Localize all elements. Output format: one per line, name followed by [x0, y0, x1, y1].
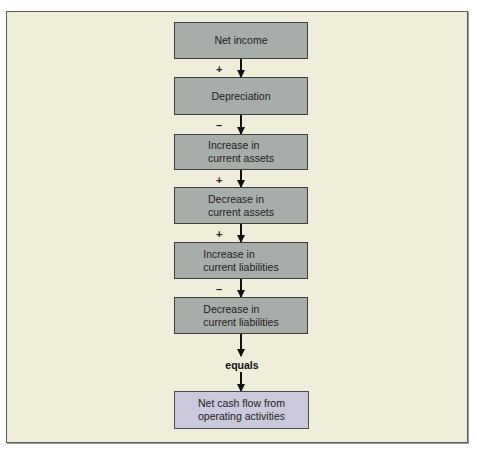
arrow-down-icon	[240, 334, 242, 356]
net-income-label: Net income	[214, 34, 267, 47]
net-income-box: Net income	[174, 22, 308, 59]
net-cash-flow-box: Net cash flow from operating activities	[174, 391, 309, 429]
plus-operator: +	[216, 229, 222, 239]
increase-current-liabilities-box: Increase in current liabilities	[174, 242, 308, 279]
increase-current-liabilities-label: Increase in current liabilities	[203, 248, 278, 274]
decrease-current-assets-label: Decrease in current assets	[208, 193, 274, 219]
depreciation-label: Depreciation	[212, 90, 271, 103]
net-cash-flow-label: Net cash flow from operating activities	[198, 397, 285, 423]
arrow-down-icon	[240, 224, 242, 242]
decrease-current-liabilities-label: Decrease in current liabilities	[203, 303, 278, 329]
arrow-down-icon	[240, 279, 242, 297]
arrow-down-icon	[240, 170, 242, 187]
arrow-down-icon	[240, 115, 242, 134]
decrease-current-liabilities-box: Decrease in current liabilities	[174, 297, 308, 334]
depreciation-box: Depreciation	[174, 77, 308, 115]
increase-current-assets-box: Increase in current assets	[174, 134, 308, 170]
equals-label: equals	[222, 359, 262, 371]
plus-operator: +	[216, 175, 222, 185]
minus-operator: –	[216, 120, 222, 130]
minus-operator: –	[216, 284, 222, 294]
arrow-down-icon	[240, 59, 242, 77]
decrease-current-assets-box: Decrease in current assets	[174, 187, 308, 224]
increase-current-assets-label: Increase in current assets	[208, 139, 274, 165]
arrow-down-icon	[240, 372, 242, 391]
plus-operator: +	[216, 64, 222, 74]
